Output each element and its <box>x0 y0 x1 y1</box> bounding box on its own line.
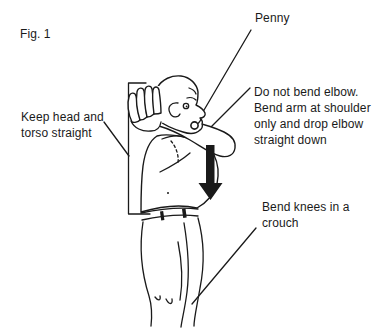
person-hand <box>128 86 163 132</box>
penny-coin <box>191 122 198 129</box>
shirt-button-dot <box>167 192 169 194</box>
penny-drop-diagram: Fig. 1 Penny Do not bend elbow. Bend arm… <box>0 0 381 329</box>
elbow-instruction-line: Do not bend elbow. <box>254 84 371 100</box>
penny-leader-line <box>197 30 251 122</box>
knees-instruction: Bend knees in a crouch <box>262 199 350 231</box>
elbow-instruction-line: straight down <box>254 132 371 148</box>
illustration-person-drawing <box>0 0 381 329</box>
posture-leader-line <box>104 122 129 156</box>
penny-label: Penny <box>255 10 290 26</box>
belt-loop <box>182 209 187 218</box>
person-legs <box>141 218 203 327</box>
belt-loop <box>160 211 164 220</box>
knees-instruction-line: Bend knees in a <box>262 199 350 215</box>
elbow-instruction-line: Bend arm at shoulder <box>254 100 371 116</box>
posture-instruction-line: torso straight <box>21 125 104 141</box>
elbow-instruction: Do not bend elbow. Bend arm at shoulder … <box>254 84 371 148</box>
knee-crease <box>166 299 172 304</box>
knees-instruction-line: crouch <box>262 215 350 231</box>
posture-instruction: Keep head and torso straight <box>21 109 104 141</box>
figure-label: Fig. 1 <box>20 26 51 42</box>
elbow-instruction-line: only and drop elbow <box>254 116 371 132</box>
finger <box>153 87 161 114</box>
knee-crease <box>155 296 160 300</box>
posture-instruction-line: Keep head and <box>21 109 104 125</box>
eye-pupil <box>186 106 188 108</box>
